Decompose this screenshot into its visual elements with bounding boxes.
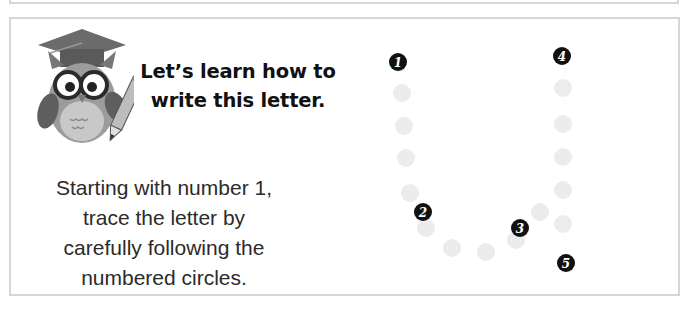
- trace-guide-dot: [531, 203, 549, 221]
- trace-guide-dot: [417, 219, 435, 237]
- svg-text:3: 3: [516, 222, 524, 236]
- step-badge-5: 5: [557, 254, 575, 272]
- letter-trace-area[interactable]: 12345: [0, 0, 690, 312]
- step-badge-1: 1: [389, 53, 407, 71]
- trace-guide-dot: [393, 84, 411, 102]
- trace-guide-dot: [395, 117, 413, 135]
- step-badge-2: 2: [414, 203, 432, 221]
- svg-text:5: 5: [562, 257, 570, 271]
- svg-text:1: 1: [394, 56, 402, 70]
- trace-guide-dot: [554, 215, 572, 233]
- trace-guide-dot: [554, 148, 572, 166]
- trace-guide-dot: [443, 239, 461, 257]
- step-badge-4: 4: [553, 47, 571, 65]
- trace-guide-dot: [554, 181, 572, 199]
- svg-text:2: 2: [418, 206, 427, 220]
- svg-text:4: 4: [558, 50, 566, 64]
- step-badge-3: 3: [511, 219, 529, 237]
- trace-guide-dot: [397, 149, 415, 167]
- trace-guide-dot: [477, 243, 495, 261]
- trace-guide-dot: [554, 79, 572, 97]
- trace-guide-dot: [554, 115, 572, 133]
- trace-guide-dot: [401, 184, 419, 202]
